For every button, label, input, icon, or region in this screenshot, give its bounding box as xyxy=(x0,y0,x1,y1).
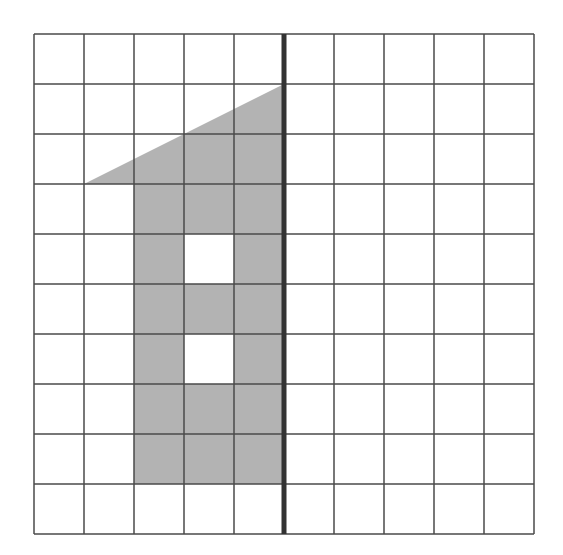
window-hole xyxy=(184,334,234,384)
window-hole xyxy=(184,234,234,284)
grid-diagram xyxy=(0,0,563,555)
